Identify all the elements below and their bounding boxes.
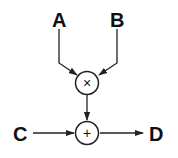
- output-label-d: D: [149, 123, 163, 145]
- dataflow-diagram: A B C D × +: [0, 0, 178, 158]
- multiply-symbol: ×: [83, 75, 91, 91]
- edge-b-to-multiply: [99, 29, 117, 75]
- add-symbol: +: [83, 125, 91, 141]
- input-label-c: C: [13, 123, 27, 145]
- input-label-a: A: [52, 9, 66, 31]
- input-label-b: B: [110, 9, 124, 31]
- add-node: +: [76, 122, 99, 145]
- multiply-node: ×: [76, 72, 99, 95]
- edge-a-to-multiply: [59, 29, 77, 75]
